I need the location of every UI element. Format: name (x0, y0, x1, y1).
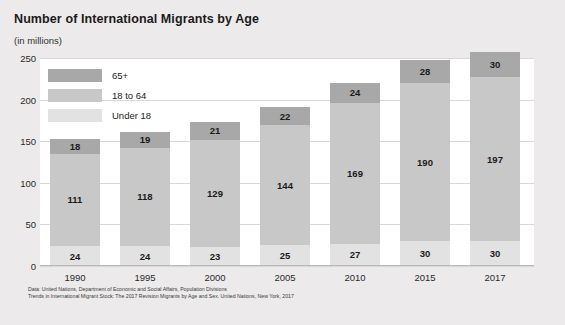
bar-value-label: 19 (140, 134, 151, 145)
y-axis-tick-label: 100 (0, 177, 36, 188)
bar-segment: 190 (400, 83, 450, 241)
x-axis-tick-label: 2015 (390, 272, 460, 283)
legend-swatch (48, 109, 102, 122)
bar-segment: 129 (190, 140, 240, 247)
bar-1990[interactable]: 1811124 (50, 139, 100, 266)
bar-2000[interactable]: 2112923 (190, 122, 240, 266)
bar-value-label: 23 (210, 251, 221, 262)
bar-segment: 23 (190, 247, 240, 266)
x-axis-line (40, 265, 534, 266)
bar-segment: 111 (50, 154, 100, 246)
y-axis-tick-label: 50 (0, 219, 36, 230)
bar-segment: 18 (50, 139, 100, 154)
bar-1995[interactable]: 1911824 (120, 132, 170, 266)
bar-segment: 30 (400, 241, 450, 266)
legend-item[interactable]: 65+ (48, 67, 151, 84)
bar-value-label: 24 (70, 251, 81, 262)
bar-segment: 197 (470, 77, 520, 241)
bar-segment: 118 (120, 148, 170, 246)
y-axis-tick-label: 0 (0, 261, 36, 272)
gridline (40, 58, 534, 59)
gridline (40, 266, 534, 267)
bar-value-label: 28 (420, 66, 431, 77)
source-line-2: Trends in International Migrant Stock: T… (28, 293, 294, 300)
bar-2010[interactable]: 2416927 (330, 83, 380, 266)
legend-label: 18 to 64 (112, 90, 146, 101)
bar-2017[interactable]: 3019730 (470, 52, 520, 266)
bar-value-label: 27 (350, 249, 361, 260)
bar-value-label: 111 (68, 194, 83, 205)
bar-segment: 27 (330, 244, 380, 266)
y-axis-tick-label: 200 (0, 94, 36, 105)
legend-item[interactable]: Under 18 (48, 107, 151, 124)
chart-page: Number of International Migrants by Age … (0, 0, 565, 325)
bar-segment: 24 (330, 83, 380, 103)
bar-segment: 21 (190, 122, 240, 139)
x-axis-tick-label: 2010 (320, 272, 390, 283)
bar-value-label: 197 (487, 154, 503, 165)
bar-value-label: 24 (350, 87, 361, 98)
legend-label: 65+ (112, 70, 128, 81)
bar-value-label: 25 (280, 250, 291, 261)
bar-segment: 25 (260, 245, 310, 266)
bar-value-label: 30 (420, 248, 431, 259)
source-line-1: Data: United Nations, Department of Econ… (28, 286, 227, 293)
chart-subtitle: (in millions) (14, 35, 62, 46)
bar-segment: 19 (120, 132, 170, 148)
bar-2005[interactable]: 2214425 (260, 107, 310, 266)
bar-value-label: 22 (280, 111, 291, 122)
legend-swatch (48, 89, 102, 102)
legend-label: Under 18 (112, 110, 151, 121)
bar-value-label: 18 (70, 141, 81, 152)
y-axis-tick-label: 250 (0, 53, 36, 64)
bar-value-label: 21 (210, 125, 221, 136)
bar-segment: 22 (260, 107, 310, 125)
bar-value-label: 30 (490, 59, 501, 70)
bar-2015[interactable]: 2819030 (400, 60, 450, 266)
bar-segment: 24 (120, 246, 170, 266)
x-axis-tick-label: 1995 (110, 272, 180, 283)
bar-segment: 30 (470, 52, 520, 77)
page-title: Number of International Migrants by Age (14, 12, 259, 26)
bar-value-label: 129 (207, 188, 223, 199)
plot-area: 1811124191182421129232214425241692728190… (40, 58, 534, 266)
legend-item[interactable]: 18 to 64 (48, 87, 151, 104)
bar-value-label: 30 (490, 248, 501, 259)
chart-legend: 65+18 to 64Under 18 (48, 67, 151, 127)
x-axis-tick-label: 2000 (180, 272, 250, 283)
bar-segment: 169 (330, 103, 380, 244)
bar-segment: 144 (260, 125, 310, 245)
bar-segment: 30 (470, 241, 520, 266)
bar-segment: 28 (400, 60, 450, 83)
bar-value-label: 169 (347, 168, 363, 179)
x-axis-tick-label: 2005 (250, 272, 320, 283)
legend-swatch (48, 69, 102, 82)
bar-value-label: 190 (417, 157, 433, 168)
bar-segment: 24 (50, 246, 100, 266)
x-axis-tick-label: 2017 (460, 272, 530, 283)
bar-value-label: 118 (137, 191, 152, 202)
y-axis-tick-label: 150 (0, 136, 36, 147)
x-axis-tick-label: 1990 (40, 272, 110, 283)
bar-value-label: 24 (140, 251, 151, 262)
bar-value-label: 144 (277, 180, 293, 191)
